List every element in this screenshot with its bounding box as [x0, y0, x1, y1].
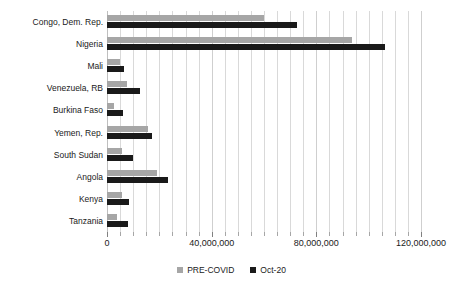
- bar-oct-20: [107, 177, 168, 183]
- axis-tick: [251, 232, 252, 236]
- category-label: Tanzania: [0, 216, 103, 226]
- gridline: [421, 11, 422, 232]
- axis-tick: [421, 232, 422, 237]
- bar-oct-20: [107, 110, 123, 116]
- axis-tick: [172, 232, 173, 236]
- bar-group: [107, 166, 421, 188]
- bar-group: [107, 33, 421, 55]
- axis-tick: [382, 232, 383, 236]
- bar-group: [107, 122, 421, 144]
- axis-tick-label: 120,000,000: [396, 238, 446, 248]
- category-axis-labels: Congo, Dem. Rep.NigeriaMaliVenezuela, RB…: [0, 11, 103, 232]
- bar-group: [107, 77, 421, 99]
- bar-group: [107, 188, 421, 210]
- category-label: Venezuela, RB: [0, 83, 103, 93]
- bar-chart: Congo, Dem. Rep.NigeriaMaliVenezuela, RB…: [0, 0, 463, 285]
- axis-tick: [133, 232, 134, 236]
- category-label: Angola: [0, 172, 103, 182]
- axis-tick: [107, 232, 108, 237]
- legend-label: PRE-COVID: [187, 265, 234, 275]
- bar-oct-20: [107, 221, 128, 227]
- legend-item[interactable]: PRE-COVID: [177, 265, 234, 275]
- chart-legend: PRE-COVIDOct-20: [0, 263, 463, 277]
- axis-tick-label: 40,000,000: [189, 238, 234, 248]
- category-label: Burkina Faso: [0, 105, 103, 115]
- axis-tick: [159, 232, 160, 236]
- bar-group: [107, 144, 421, 166]
- value-axis-ticks: [107, 232, 421, 237]
- axis-tick: [329, 232, 330, 236]
- axis-tick: [238, 232, 239, 236]
- bar-oct-20: [107, 199, 129, 205]
- bar-oct-20: [107, 133, 152, 139]
- axis-tick: [290, 232, 291, 236]
- bar-oct-20: [107, 22, 297, 28]
- category-label: Kenya: [0, 194, 103, 204]
- bar-pre-covid: [107, 214, 117, 220]
- axis-tick: [225, 232, 226, 236]
- axis-tick: [395, 232, 396, 236]
- legend-label: Oct-20: [260, 265, 286, 275]
- category-label: Nigeria: [0, 39, 103, 49]
- bar-pre-covid: [107, 192, 122, 198]
- axis-tick: [369, 232, 370, 236]
- bar-pre-covid: [107, 103, 114, 109]
- bar-oct-20: [107, 66, 124, 72]
- axis-tick: [120, 232, 121, 236]
- axis-tick: [356, 232, 357, 236]
- bar-group: [107, 11, 421, 33]
- axis-tick: [146, 232, 147, 236]
- axis-tick: [303, 232, 304, 236]
- value-axis-labels: 040,000,00080,000,000120,000,000: [0, 238, 463, 252]
- bar-group: [107, 99, 421, 121]
- axis-tick: [316, 232, 317, 237]
- bar-pre-covid: [107, 148, 122, 154]
- bar-pre-covid: [107, 37, 352, 43]
- bar-pre-covid: [107, 59, 120, 65]
- bar-rows: [107, 11, 421, 232]
- bar-pre-covid: [107, 126, 148, 132]
- category-label: Yemen, Rep.: [0, 128, 103, 138]
- bar-group: [107, 55, 421, 77]
- bar-group: [107, 210, 421, 232]
- legend-item[interactable]: Oct-20: [250, 265, 286, 275]
- axis-tick: [199, 232, 200, 236]
- axis-tick: [186, 232, 187, 236]
- bar-pre-covid: [107, 170, 157, 176]
- axis-tick: [343, 232, 344, 236]
- category-label: Mali: [0, 61, 103, 71]
- axis-tick-label: 0: [104, 238, 109, 248]
- bar-pre-covid: [107, 81, 127, 87]
- axis-tick: [408, 232, 409, 236]
- category-label: Congo, Dem. Rep.: [0, 17, 103, 27]
- plot-area: [107, 11, 421, 232]
- bar-oct-20: [107, 155, 133, 161]
- axis-tick: [277, 232, 278, 236]
- bar-pre-covid: [107, 15, 264, 21]
- legend-swatch-icon: [177, 267, 183, 273]
- bar-oct-20: [107, 88, 140, 94]
- axis-tick: [264, 232, 265, 236]
- category-label: South Sudan: [0, 150, 103, 160]
- bar-oct-20: [107, 44, 385, 50]
- legend-swatch-icon: [250, 267, 256, 273]
- axis-tick-label: 80,000,000: [294, 238, 339, 248]
- axis-tick: [212, 232, 213, 237]
